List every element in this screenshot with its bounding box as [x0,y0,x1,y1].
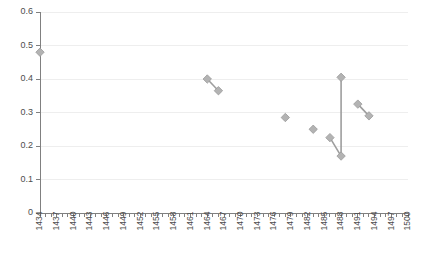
series-line-segment [330,77,341,156]
y-tick-label: 0.1 [20,174,33,184]
y-tick-label: 0.6 [20,6,33,16]
x-tick-label: 1440 [68,211,78,230]
data-point-marker [36,48,44,56]
scatter-plot: 00.10.20.30.40.50.6 14341437144014431446… [0,0,429,263]
x-tick-label: 1494 [369,211,379,230]
y-tick-label: 0 [28,207,33,217]
x-tick-label: 1443 [84,211,94,230]
data-point-marker [337,73,345,81]
y-tick-label: 0.2 [20,140,33,150]
y-tick-label: 0.3 [20,107,33,117]
x-tick-label: 1449 [118,211,128,230]
data-point-marker [326,133,334,141]
x-tick-label: 1470 [235,211,245,230]
x-axis: 1434143714401443144614491452145514581461… [34,211,412,230]
series-markers [36,48,373,160]
x-tick-label: 1482 [302,211,312,230]
x-tick-label: 1437 [51,211,61,230]
x-tick-label: 1461 [185,211,195,230]
x-tick-label: 1455 [151,211,161,230]
data-point-marker [281,113,289,121]
x-tick-label: 1485 [319,211,329,230]
chart-container: 00.10.20.30.40.50.6 14341437144014431446… [0,0,429,263]
y-axis: 00.10.20.30.40.50.6 [20,6,40,217]
data-point-marker [309,125,317,133]
x-tick-label: 1497 [386,211,396,230]
x-tick-label: 1464 [202,211,212,230]
x-tick-label: 1488 [335,211,345,230]
gridlines [40,12,408,213]
y-tick-label: 0.5 [20,40,33,50]
x-tick-label: 1491 [352,211,362,230]
x-tick-label: 1452 [135,211,145,230]
x-tick-label: 1458 [168,211,178,230]
data-point-marker [337,152,345,160]
x-tick-label: 1434 [34,211,44,230]
x-tick-label: 1500 [402,211,412,230]
x-tick-label: 1446 [101,211,111,230]
y-tick-label: 0.4 [20,73,33,83]
x-tick-label: 1479 [285,211,295,230]
x-tick-label: 1473 [252,211,262,230]
x-tick-label: 1467 [218,211,228,230]
x-tick-label: 1476 [268,211,278,230]
